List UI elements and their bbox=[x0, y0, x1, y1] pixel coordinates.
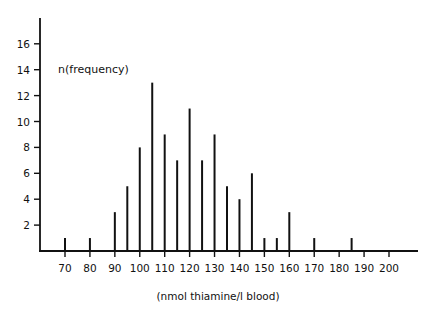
x-tick-label: 190 bbox=[354, 262, 374, 274]
x-tick-label: 70 bbox=[58, 262, 71, 274]
y-tick-label: 14 bbox=[17, 64, 31, 76]
y-tick-label: 4 bbox=[23, 193, 30, 205]
x-axis-label: (nmol thiamine/l blood) bbox=[156, 290, 279, 302]
x-tick-label: 100 bbox=[130, 262, 150, 274]
x-tick-label: 160 bbox=[279, 262, 299, 274]
x-tick-label: 110 bbox=[155, 262, 175, 274]
x-tick-label: 200 bbox=[379, 262, 399, 274]
x-tick-label: 130 bbox=[205, 262, 225, 274]
y-tick-label: 16 bbox=[17, 38, 31, 50]
x-tick-label: 140 bbox=[229, 262, 249, 274]
y-tick-label: 10 bbox=[17, 116, 30, 128]
y-tick-label: 8 bbox=[23, 141, 30, 153]
bars bbox=[65, 83, 352, 251]
y-tick-label: 12 bbox=[17, 90, 30, 102]
y-annotation: n(frequency) bbox=[58, 63, 129, 76]
x-tick-label: 150 bbox=[254, 262, 274, 274]
x-tick-label: 170 bbox=[304, 262, 324, 274]
x-tick-label: 90 bbox=[108, 262, 121, 274]
x-tick-label: 120 bbox=[180, 262, 200, 274]
axes: 2468101214167080901001101201301401501601… bbox=[17, 18, 418, 274]
frequency-histogram: 2468101214167080901001101201301401501601… bbox=[0, 0, 430, 315]
x-tick-label: 180 bbox=[329, 262, 349, 274]
y-tick-label: 2 bbox=[23, 219, 30, 231]
x-tick-label: 80 bbox=[83, 262, 96, 274]
y-tick-label: 6 bbox=[23, 167, 30, 179]
